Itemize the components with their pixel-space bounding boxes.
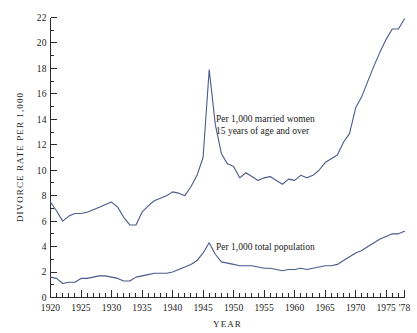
x-tick-label: 1965 [315,303,335,313]
x-tick-label: 1930 [102,303,122,313]
y-tick-label: 10 [37,166,47,176]
divorce-rate-chart-figure: 0246810121416182022 19201925193019351940… [0,0,417,333]
y-tick-label: 2 [42,267,47,277]
y-tick-label: 18 [37,64,47,74]
y-tick-label: 20 [37,38,47,48]
annotation-married-women-line2: 15 years of age and over [216,126,310,136]
chart-canvas: 0246810121416182022 19201925193019351940… [0,0,417,333]
x-tick-label: 1940 [163,303,183,313]
x-tick-label: 1925 [71,303,91,313]
y-tick-label: 14 [37,115,47,125]
y-tick-label: 8 [42,191,47,201]
x-tick-label: '78 [399,303,411,313]
y-tick-label: 6 [42,217,47,227]
x-tick-label: 1960 [285,303,305,313]
x-tick-label: 1920 [41,303,61,313]
y-axis-title: DIVORCE RATE PER 1,000 [15,92,25,222]
y-tick-label: 0 [42,293,47,303]
y-tick-label: 22 [37,13,47,23]
x-axis-title: YEAR [213,319,242,329]
series-line-total-population [51,231,405,283]
x-tick-label: 1975 [376,303,396,313]
y-axis-tick-labels: 0246810121416182022 [37,13,47,303]
x-tick-label: 1935 [132,303,152,313]
x-tick-label: 1970 [346,303,366,313]
series-annotations: Per 1,000 married women15 years of age a… [216,114,315,252]
x-axis-tick-labels: 1920192519301935194019451950195519601965… [41,303,411,313]
annotation-total-population: Per 1,000 total population [216,242,315,252]
y-tick-label: 12 [37,140,47,150]
x-tick-label: 1955 [254,303,274,313]
y-tick-label: 4 [42,242,47,252]
x-tick-label: 1950 [224,303,244,313]
annotation-married-women-line1: Per 1,000 married women [216,114,315,124]
x-tick-label: 1945 [193,303,213,313]
y-tick-label: 16 [37,89,47,99]
